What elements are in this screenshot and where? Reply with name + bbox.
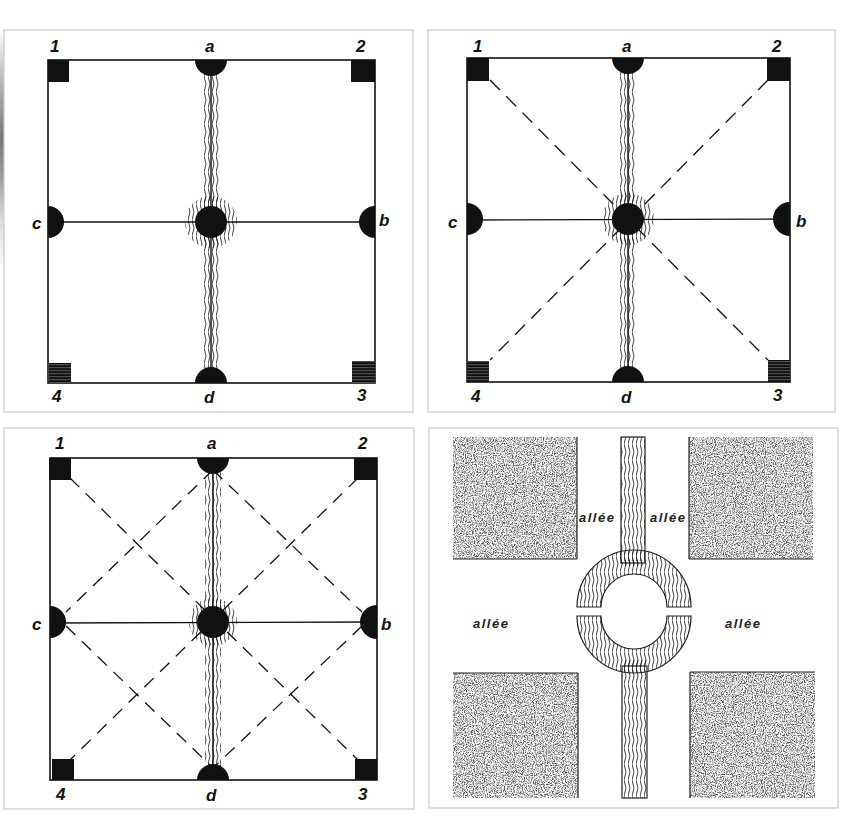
label-1: 1 bbox=[473, 37, 482, 56]
label-c: c bbox=[448, 213, 458, 232]
label-3: 3 bbox=[358, 785, 368, 804]
corner-marker-4-icon bbox=[467, 361, 489, 382]
label-d: d bbox=[206, 786, 217, 805]
garden-bed-top-left bbox=[453, 437, 577, 559]
panel-2: 1 2 3 4 a b c d bbox=[428, 30, 835, 412]
label-3: 3 bbox=[357, 386, 367, 405]
corner-marker-3-icon bbox=[352, 361, 375, 383]
corner-marker-4-icon bbox=[49, 363, 71, 383]
allee-label-top-left: allée bbox=[579, 510, 615, 525]
label-c: c bbox=[32, 214, 42, 233]
label-a: a bbox=[622, 37, 631, 56]
corner-marker-1-icon bbox=[49, 458, 71, 480]
garden-bed-top-right bbox=[689, 437, 813, 559]
label-a: a bbox=[207, 434, 216, 453]
label-d: d bbox=[204, 388, 215, 407]
corner-marker-3-icon bbox=[355, 759, 377, 780]
label-c: c bbox=[32, 615, 42, 634]
garden-plan-figure: 1 2 3 4 a b c d 1 2 3 4 a b c d bbox=[0, 0, 854, 840]
corner-marker-1-icon bbox=[467, 58, 489, 81]
label-2: 2 bbox=[771, 37, 782, 56]
panel-1: 1 2 3 4 a b c d bbox=[4, 30, 413, 412]
corner-marker-2-icon bbox=[351, 60, 375, 82]
panel-3: 1 2 3 4 a b c d bbox=[4, 428, 414, 809]
label-a: a bbox=[205, 37, 214, 56]
label-4: 4 bbox=[51, 387, 62, 406]
corner-marker-4-icon bbox=[52, 759, 74, 780]
allee-label-right: allée bbox=[725, 616, 761, 631]
center-fountain-icon bbox=[197, 606, 229, 638]
corner-marker-3-icon bbox=[768, 360, 790, 382]
label-b: b bbox=[381, 615, 391, 634]
allee-label-left: allée bbox=[473, 616, 509, 631]
label-2: 2 bbox=[355, 37, 366, 56]
label-3: 3 bbox=[773, 386, 783, 405]
label-d: d bbox=[621, 388, 632, 407]
garden-bed-bottom-left bbox=[453, 673, 578, 798]
garden-bed-bottom-right bbox=[690, 672, 815, 798]
label-4: 4 bbox=[55, 785, 66, 804]
label-1: 1 bbox=[55, 434, 64, 453]
label-2: 2 bbox=[357, 434, 368, 453]
label-1: 1 bbox=[50, 37, 59, 56]
corner-marker-2-icon bbox=[354, 458, 377, 480]
panel-4: allée allée allée allée bbox=[429, 428, 838, 808]
label-b: b bbox=[379, 211, 389, 230]
channel-bottom bbox=[622, 666, 647, 798]
channel-top bbox=[621, 437, 645, 563]
center-fountain-icon bbox=[612, 203, 644, 235]
label-b: b bbox=[796, 212, 806, 231]
label-4: 4 bbox=[470, 387, 481, 406]
corner-marker-2-icon bbox=[767, 58, 790, 81]
allee-label-top-right: allée bbox=[650, 510, 686, 525]
center-fountain-icon bbox=[195, 206, 227, 238]
corner-marker-1-icon bbox=[48, 60, 69, 82]
